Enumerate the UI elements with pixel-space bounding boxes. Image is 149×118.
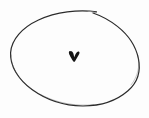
line-drawing-svg	[0, 0, 149, 118]
drawing-canvas: Oval outline with a small v mark inside …	[0, 0, 149, 118]
